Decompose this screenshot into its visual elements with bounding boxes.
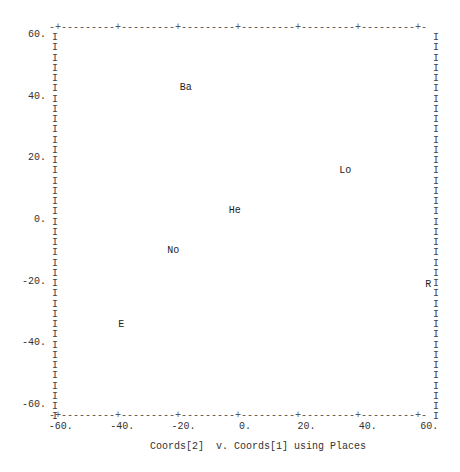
y-tick-label: 40. — [6, 92, 46, 102]
top-border: -+---------+---------+---------+--------… — [49, 23, 427, 33]
x-tick-label: 0. — [239, 422, 251, 432]
y-tick-label: -20. — [6, 277, 46, 287]
x-tick-label: -20. — [172, 422, 196, 432]
point-label: Lo — [339, 166, 351, 176]
y-tick-label: 60. — [6, 30, 46, 40]
point-label: No — [167, 246, 179, 256]
point-label: R — [425, 280, 431, 290]
point-label: Ba — [180, 83, 192, 93]
x-tick-label: 40. — [359, 422, 377, 432]
point-label: E — [118, 320, 124, 330]
y-tick-label: 0. — [6, 215, 46, 225]
y-tick-label: -40. — [6, 338, 46, 348]
y-tick-label: 20. — [6, 153, 46, 163]
left-border: I I I I I I I I I I I I I I I I I I I I … — [52, 33, 58, 423]
point-label: He — [229, 206, 241, 216]
x-tick-label: -40. — [110, 422, 134, 432]
x-tick-label: 60. — [420, 422, 438, 432]
y-tick-label: -60. — [6, 400, 46, 410]
x-tick-label: 20. — [297, 422, 315, 432]
x-tick-label: -60. — [49, 422, 73, 432]
bottom-border: -+---------+---------+---------+--------… — [49, 411, 427, 421]
right-border: I I I I I I I I I I I I I I I I I I I I … — [433, 33, 439, 423]
chart-caption: Coords[2] v. Coords[1] using Places — [150, 442, 366, 452]
